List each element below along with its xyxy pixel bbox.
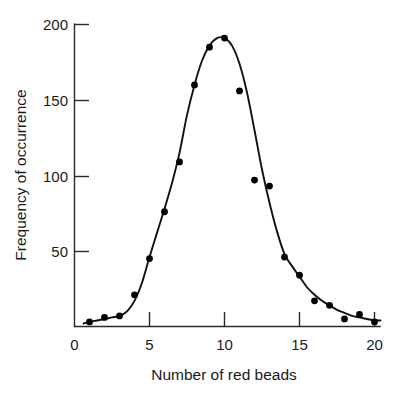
y-tick-label-3: 150 (43, 92, 68, 109)
data-point (296, 272, 303, 279)
x-axis-tick-labels: 0 5 10 15 20 (70, 336, 383, 353)
data-point (236, 88, 243, 95)
data-point (116, 313, 123, 320)
data-point (266, 183, 273, 190)
data-point (281, 254, 288, 261)
data-point (206, 44, 213, 51)
data-point (326, 302, 333, 309)
x-axis-ticks (150, 312, 375, 327)
data-point (251, 177, 258, 184)
data-point (356, 311, 363, 318)
data-point (146, 255, 153, 262)
data-point (311, 297, 318, 304)
y-axis-ticks (75, 25, 90, 252)
data-point (371, 319, 378, 326)
data-point (176, 159, 183, 166)
data-point (191, 82, 198, 89)
data-point (101, 314, 108, 321)
fitted-curve (84, 37, 381, 323)
data-point (221, 35, 228, 42)
x-tick-label-20: 20 (366, 336, 383, 353)
x-tick-label-10: 10 (216, 336, 233, 353)
scatter-plot-canvas: 200 150 100 50 0 5 10 15 20 Number of re… (0, 0, 409, 393)
data-point (161, 208, 168, 215)
data-point (341, 316, 348, 323)
y-tick-label-4: 200 (43, 16, 68, 33)
data-point-group (86, 35, 378, 326)
y-axis-tick-labels: 200 150 100 50 (43, 16, 68, 260)
data-point (131, 291, 138, 298)
y-tick-label-2: 100 (43, 168, 68, 185)
x-axis-title: Number of red beads (151, 366, 297, 383)
y-tick-label-1: 50 (51, 243, 68, 260)
chart-figure: 200 150 100 50 0 5 10 15 20 Number of re… (0, 0, 409, 393)
x-tick-label-5: 5 (145, 336, 153, 353)
data-point (86, 319, 93, 326)
x-tick-label-15: 15 (291, 336, 308, 353)
y-axis-title: Frequency of occurrence (12, 89, 29, 260)
x-tick-label-0: 0 (70, 336, 78, 353)
